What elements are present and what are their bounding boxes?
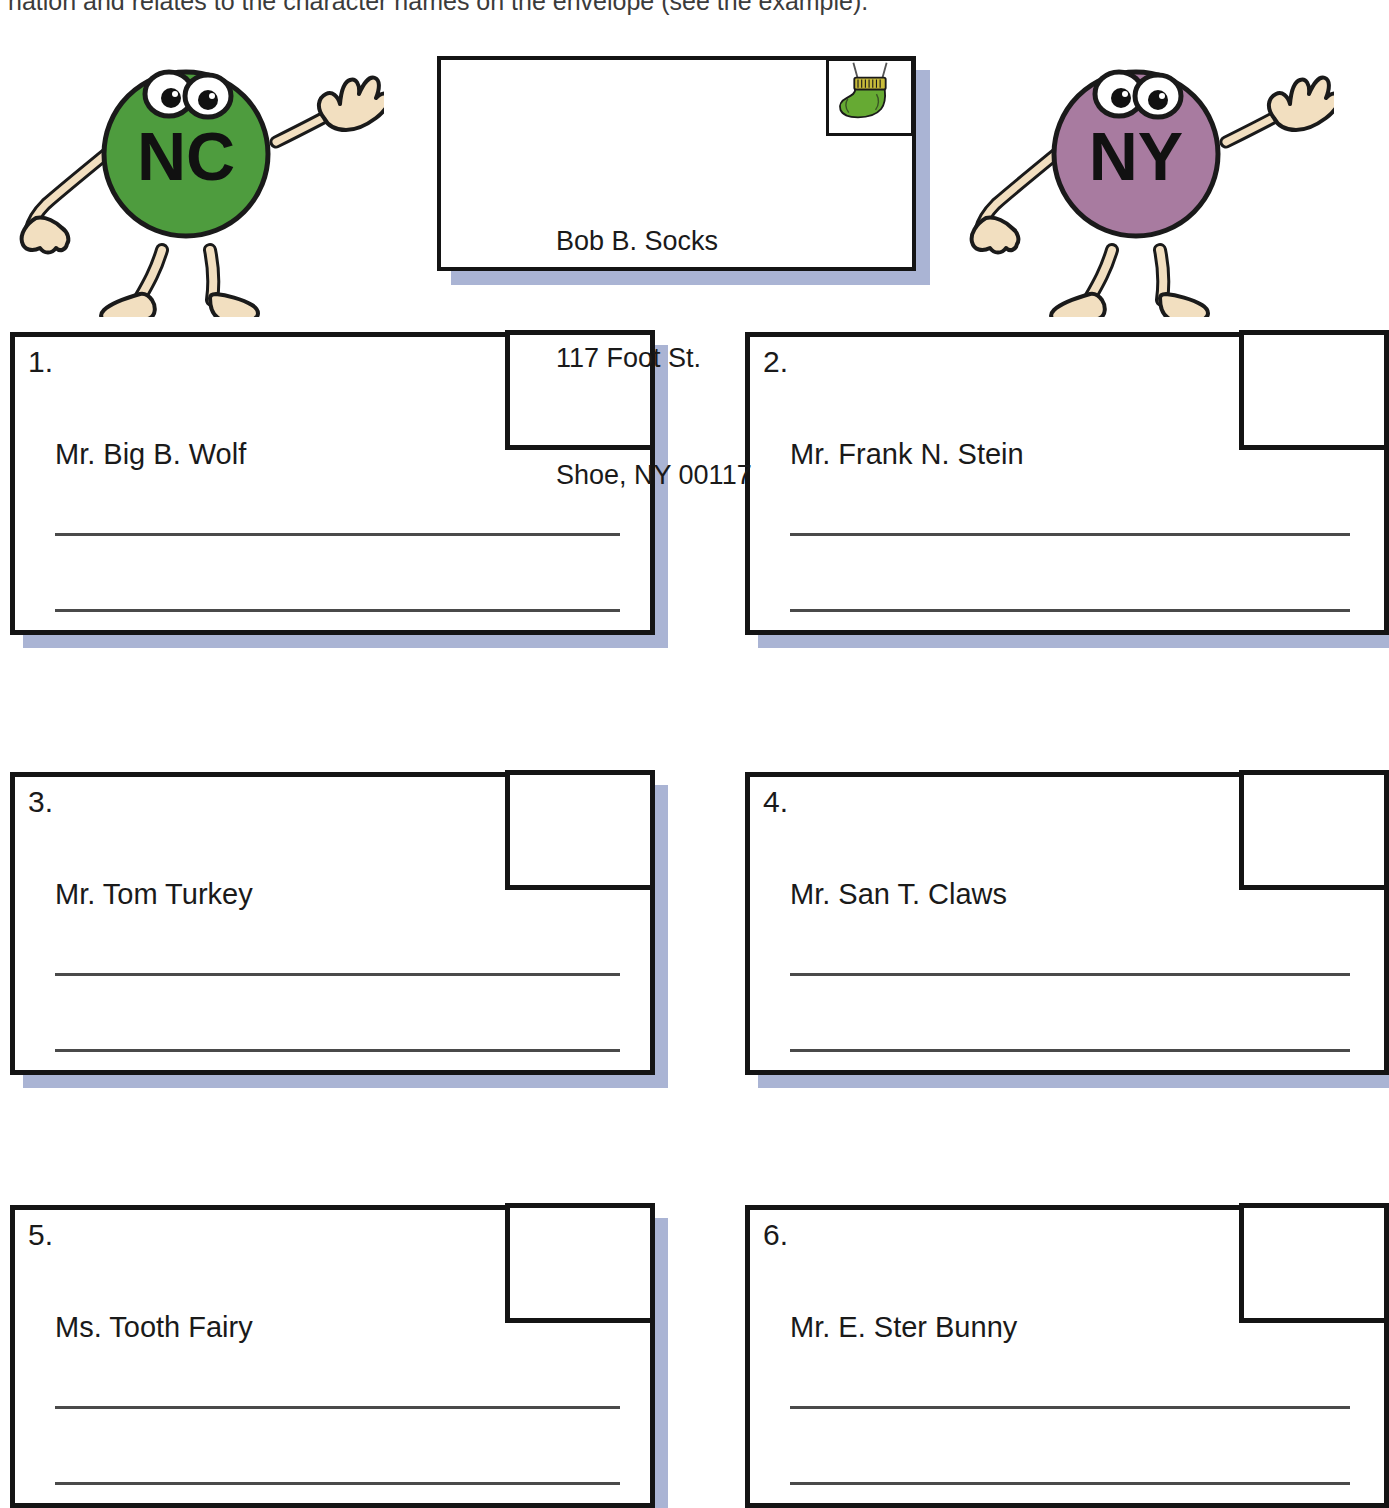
envelope-2-write-line-2[interactable]	[790, 609, 1350, 612]
envelope-5-write-line-1[interactable]	[55, 1406, 620, 1409]
envelope-6-write-line-1[interactable]	[790, 1406, 1350, 1409]
envelope-4-number: 4.	[763, 785, 788, 819]
envelope-2-name: Mr. Frank N. Stein	[790, 437, 1024, 471]
envelope-3: 3. Mr. Tom Turkey	[10, 772, 655, 1075]
envelope-4-name: Mr. San T. Claws	[790, 877, 1007, 911]
envelope-3-name: Mr. Tom Turkey	[55, 877, 253, 911]
example-address-line-3: Shoe, NY 00117	[556, 456, 752, 495]
mascot-ny-label: NY	[1089, 118, 1183, 194]
mascot-nc-label: NC	[137, 118, 235, 194]
example-address-line-2: 117 Foot St.	[556, 339, 752, 378]
sock-stamp-icon	[826, 58, 914, 136]
envelope-3-number: 3.	[28, 785, 53, 819]
envelope-1-name: Mr. Big B. Wolf	[55, 437, 246, 471]
example-address-block: Bob B. Socks 117 Foot St. Shoe, NY 00117	[556, 144, 752, 573]
mascot-nc: NC	[14, 32, 384, 317]
envelope-5: 5. Ms. Tooth Fairy	[10, 1205, 655, 1508]
envelope-6-write-line-2[interactable]	[790, 1482, 1350, 1485]
example-envelope: Bob B. Socks 117 Foot St. Shoe, NY 00117	[437, 56, 916, 271]
stamp-box-6[interactable]	[1239, 1203, 1389, 1323]
stamp-box-3[interactable]	[505, 770, 655, 890]
envelope-1-number: 1.	[28, 345, 53, 379]
envelope-6: 6. Mr. E. Ster Bunny	[745, 1205, 1389, 1508]
envelope-4-write-line-1[interactable]	[790, 973, 1350, 976]
stamp-box-5[interactable]	[505, 1203, 655, 1323]
envelope-1-write-line-2[interactable]	[55, 609, 620, 612]
envelope-1-write-line-1[interactable]	[55, 533, 620, 536]
envelope-4: 4. Mr. San T. Claws	[745, 772, 1389, 1075]
envelope-3-write-line-1[interactable]	[55, 973, 620, 976]
envelope-6-name: Mr. E. Ster Bunny	[790, 1310, 1017, 1344]
stamp-box-2[interactable]	[1239, 330, 1389, 450]
envelope-6-number: 6.	[763, 1218, 788, 1252]
stamp-box-4[interactable]	[1239, 770, 1389, 890]
envelope-4-write-line-2[interactable]	[790, 1049, 1350, 1052]
instruction-text: nation and relates to the character name…	[8, 0, 1348, 16]
envelope-5-number: 5.	[28, 1218, 53, 1252]
envelope-2: 2. Mr. Frank N. Stein	[745, 332, 1389, 635]
envelope-5-write-line-2[interactable]	[55, 1482, 620, 1485]
example-address-line-1: Bob B. Socks	[556, 222, 752, 261]
envelope-2-write-line-1[interactable]	[790, 533, 1350, 536]
mascot-ny: NY	[964, 32, 1334, 317]
envelope-2-number: 2.	[763, 345, 788, 379]
envelope-5-name: Ms. Tooth Fairy	[55, 1310, 253, 1344]
envelope-3-write-line-2[interactable]	[55, 1049, 620, 1052]
